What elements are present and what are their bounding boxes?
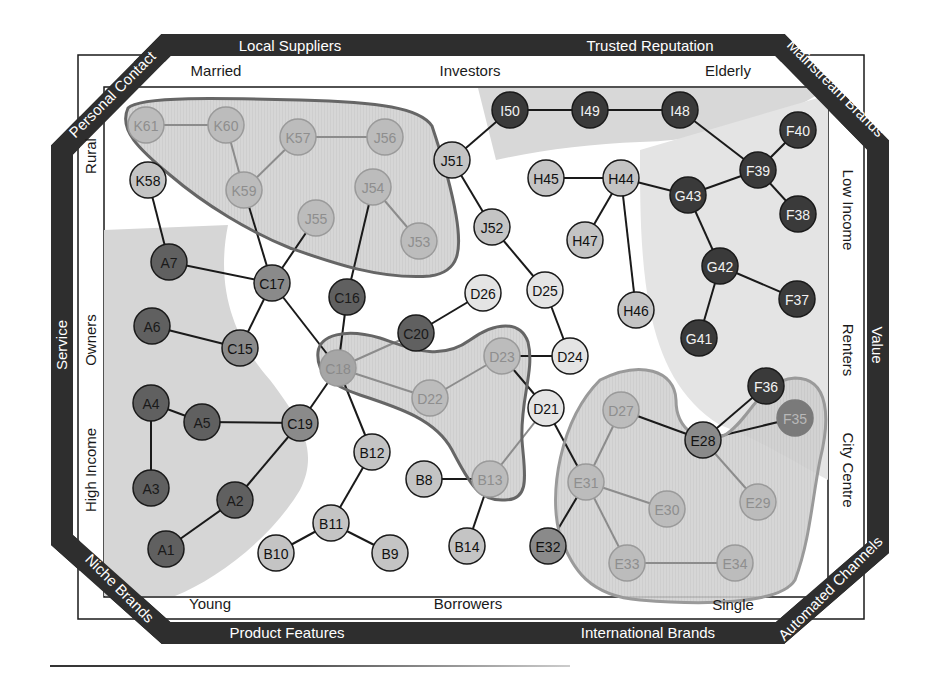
axis-label-single: Single: [712, 596, 754, 613]
node-label: B11: [319, 516, 343, 532]
node-a4[interactable]: A4: [133, 385, 169, 421]
node-a2[interactable]: A2: [217, 482, 253, 518]
node-label: D25: [532, 283, 558, 299]
band-label-value: Value: [869, 326, 886, 363]
node-label: J55: [305, 211, 328, 227]
node-d21[interactable]: D21: [528, 390, 564, 426]
node-i49[interactable]: I49: [572, 92, 608, 128]
node-label: D27: [608, 403, 634, 419]
node-j54[interactable]: J54: [355, 169, 391, 205]
band-label-trusted-reputation: Trusted Reputation: [586, 37, 713, 54]
node-b14[interactable]: B14: [449, 528, 485, 564]
node-label: C15: [227, 341, 253, 357]
node-label: F40: [786, 123, 810, 139]
node-a1[interactable]: A1: [148, 531, 184, 567]
node-a6[interactable]: A6: [134, 308, 170, 344]
node-c19[interactable]: C19: [282, 405, 318, 441]
node-f37[interactable]: F37: [779, 281, 815, 317]
node-label: B14: [455, 539, 480, 555]
node-label: D23: [489, 349, 515, 365]
node-g41[interactable]: G41: [681, 320, 717, 356]
node-label: H44: [608, 171, 634, 187]
node-label: F37: [785, 292, 809, 308]
node-d26[interactable]: D26: [465, 275, 501, 311]
node-label: D21: [533, 401, 559, 417]
node-j55[interactable]: J55: [298, 200, 334, 236]
node-b11[interactable]: B11: [313, 505, 349, 541]
node-b8[interactable]: B8: [406, 461, 442, 497]
node-d27[interactable]: D27: [603, 392, 639, 428]
node-label: H47: [572, 233, 598, 249]
node-e28[interactable]: E28: [685, 422, 721, 458]
node-e31[interactable]: E31: [568, 464, 604, 500]
node-label: B10: [264, 546, 289, 562]
node-label: K57: [286, 130, 311, 146]
node-i48[interactable]: I48: [662, 92, 698, 128]
node-h46[interactable]: H46: [618, 292, 654, 328]
node-label: J56: [374, 130, 397, 146]
node-d25[interactable]: D25: [527, 272, 563, 308]
node-label: C16: [334, 290, 360, 306]
node-a5[interactable]: A5: [184, 404, 220, 440]
node-label: A4: [142, 396, 159, 412]
node-d22[interactable]: D22: [412, 380, 448, 416]
node-d24[interactable]: D24: [552, 338, 588, 374]
node-label: F35: [783, 411, 807, 427]
node-e33[interactable]: E33: [609, 545, 645, 581]
node-b9[interactable]: B9: [372, 535, 408, 571]
node-a7[interactable]: A7: [151, 244, 187, 280]
node-label: E33: [615, 556, 640, 572]
node-j56[interactable]: J56: [367, 119, 403, 155]
node-k58[interactable]: K58: [130, 162, 166, 198]
node-label: I49: [580, 103, 600, 119]
node-k60[interactable]: K60: [208, 107, 244, 143]
node-label: J54: [362, 180, 385, 196]
node-b12[interactable]: B12: [354, 434, 390, 470]
node-j52[interactable]: J52: [474, 209, 510, 245]
node-i50[interactable]: I50: [492, 92, 528, 128]
node-h44[interactable]: H44: [603, 160, 639, 196]
node-e32[interactable]: E32: [530, 528, 566, 564]
node-f36[interactable]: F36: [748, 368, 784, 404]
node-label: E34: [723, 556, 748, 572]
node-label: J53: [408, 234, 431, 250]
node-h47[interactable]: H47: [567, 222, 603, 258]
node-c16[interactable]: C16: [329, 279, 365, 315]
node-g42[interactable]: G42: [702, 248, 738, 284]
node-j53[interactable]: J53: [401, 223, 437, 259]
node-e34[interactable]: E34: [717, 545, 753, 581]
node-c17[interactable]: C17: [254, 265, 290, 301]
node-b10[interactable]: B10: [258, 535, 294, 571]
node-k59[interactable]: K59: [226, 172, 262, 208]
node-g43[interactable]: G43: [670, 177, 706, 213]
node-label: G41: [686, 331, 713, 347]
node-h45[interactable]: H45: [528, 160, 564, 196]
node-k57[interactable]: K57: [280, 119, 316, 155]
node-a3[interactable]: A3: [133, 470, 169, 506]
axis-label-investors: Investors: [440, 62, 501, 79]
node-e29[interactable]: E29: [740, 484, 776, 520]
band-label-product-features: Product Features: [229, 624, 344, 641]
node-d23[interactable]: D23: [484, 338, 520, 374]
node-e30[interactable]: E30: [649, 491, 685, 527]
node-c20[interactable]: C20: [398, 315, 434, 351]
node-label: E32: [536, 539, 561, 555]
node-label: K58: [136, 173, 161, 189]
node-f39[interactable]: F39: [740, 152, 776, 188]
node-b13[interactable]: B13: [472, 461, 508, 497]
node-f38[interactable]: F38: [780, 196, 816, 232]
node-k61[interactable]: K61: [128, 107, 164, 143]
node-label: G42: [707, 259, 734, 275]
node-c18[interactable]: C18: [320, 350, 356, 386]
node-label: C17: [259, 276, 285, 292]
band-label-local-suppliers: Local Suppliers: [239, 37, 342, 54]
axis-label-high-income: High Income: [82, 428, 99, 512]
segmentation-network-diagram: A1A2A3A4A5A6A7B8B9B10B11B12B13B14C15C16C…: [0, 0, 935, 673]
bottom-divider-line: [50, 665, 570, 667]
node-j51[interactable]: J51: [434, 142, 470, 178]
node-c15[interactable]: C15: [222, 330, 258, 366]
node-f40[interactable]: F40: [780, 112, 816, 148]
band-label-international-brands: International Brands: [581, 624, 715, 641]
node-label: I50: [500, 103, 520, 119]
node-f35[interactable]: F35: [777, 400, 813, 436]
